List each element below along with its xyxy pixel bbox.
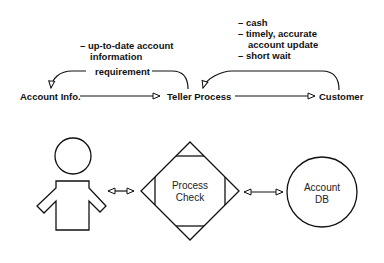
diagram-canvas xyxy=(0,0,384,263)
right-note-line3: account update xyxy=(248,39,318,50)
right-note-line4: – short wait xyxy=(238,50,291,61)
left-note-line1: – up-to-date account xyxy=(80,40,173,51)
db-label-line2: DB xyxy=(297,194,347,206)
node-teller-process: Teller Process xyxy=(167,91,231,102)
node-customer: Customer xyxy=(319,91,363,102)
db-label-line1: Account xyxy=(297,182,347,194)
right-note-line2: – timely, accurate xyxy=(238,28,317,39)
process-label-line1: Process xyxy=(165,180,215,192)
right-note-line1: – cash xyxy=(238,17,268,28)
process-label-line2: Check xyxy=(165,192,215,204)
requirement-label: requirement xyxy=(93,66,152,77)
node-account-info: Account Info. xyxy=(20,91,81,102)
actor-person-icon xyxy=(37,138,106,230)
left-note-line2: information xyxy=(90,51,142,62)
arrow-customer-feedback-curve xyxy=(203,71,339,90)
